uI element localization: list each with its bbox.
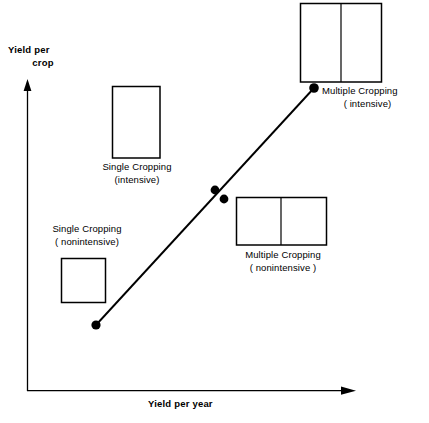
label-line1: Single Cropping (52, 223, 121, 234)
x-axis-arrowhead-icon (341, 387, 356, 395)
label-line1: Multiple Cropping (322, 85, 398, 96)
trend-line-group (91, 83, 318, 329)
field-outline (62, 259, 106, 303)
label-multiple-cropping-nonintensive: Multiple Cropping ( nonintensive ) (228, 249, 338, 274)
field-box-multiple-intensive (301, 4, 382, 83)
label-line2: (intensive) (80, 174, 194, 187)
y-axis-title-line1: Yield per (6, 44, 80, 57)
field-box-single-nonintensive (62, 259, 106, 303)
label-single-cropping-nonintensive: Single Cropping ( nonintensive) (28, 223, 146, 248)
data-point-single-intensive (211, 186, 220, 195)
data-point-multiple-intensive (309, 83, 319, 93)
label-line1: Single Cropping (102, 161, 171, 172)
field-box-single-intensive (113, 87, 161, 159)
label-multiple-cropping-intensive: Multiple Cropping ( intensive) (322, 85, 427, 110)
x-axis-title: Yield per year (148, 398, 213, 411)
label-line2: ( intensive) (322, 98, 427, 111)
y-axis-title-line2: crop (6, 57, 80, 70)
y-axis-arrowhead-icon (24, 79, 32, 91)
field-outline (113, 87, 161, 159)
label-line2: ( nonintensive ) (228, 262, 338, 275)
y-axis-title: Yield per crop (6, 44, 80, 69)
yield-diagram: Yield per crop Yield per year Single Cro… (0, 0, 429, 423)
label-line1: Multiple Cropping (245, 249, 321, 260)
data-point-single-nonintensive (91, 320, 100, 329)
label-single-cropping-intensive: Single Cropping (intensive) (80, 161, 194, 186)
label-line2: ( nonintensive) (28, 236, 146, 249)
data-point-multiple-nonintensive (220, 195, 229, 204)
field-box-multiple-nonintensive (237, 198, 327, 246)
